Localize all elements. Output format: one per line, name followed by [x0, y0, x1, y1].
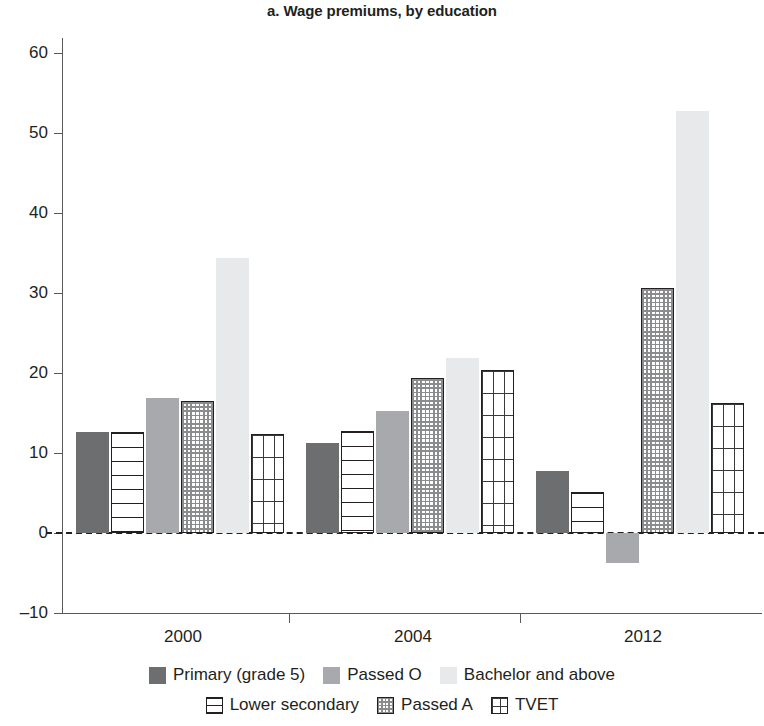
bar-2004-tvet [481, 370, 514, 533]
wage-premiums-chart: a. Wage premiums, by education –10010203… [0, 0, 764, 726]
legend-item-label: Primary (grade 5) [173, 665, 305, 685]
y-axis-label: 10 [0, 443, 48, 463]
bar-2012-lower-secondary [571, 492, 604, 533]
legend-item-label: TVET [515, 695, 558, 715]
legend-swatch-icon [149, 667, 166, 684]
x-axis-tick [289, 613, 290, 623]
legend-swatch-icon [206, 697, 223, 714]
bar-2012-primary-grade-5 [536, 471, 569, 533]
y-axis-label: 30 [0, 283, 48, 303]
y-axis-tick [54, 213, 63, 214]
bar-2012-passed-a [641, 288, 674, 533]
legend-item-lower-secondary[interactable]: Lower secondary [206, 695, 359, 715]
y-axis-tick [54, 613, 63, 614]
bar-2000-lower-secondary [111, 432, 144, 533]
bar-2000-passed-a [181, 401, 214, 533]
y-axis-label: –10 [0, 603, 48, 623]
x-axis-tick [520, 613, 521, 623]
legend-item-tvet[interactable]: TVET [491, 695, 558, 715]
bar-2000-bachelor-and-above [216, 258, 249, 533]
y-axis-label: 0 [0, 523, 48, 543]
legend-item-label: Passed O [347, 665, 422, 685]
legend-item-passed-o[interactable]: Passed O [323, 665, 422, 685]
legend-item-passed-a[interactable]: Passed A [377, 695, 473, 715]
legend-row-top: Primary (grade 5)Passed OBachelor and ab… [0, 660, 764, 690]
legend-item-label: Lower secondary [230, 695, 359, 715]
bar-2004-bachelor-and-above [446, 358, 479, 533]
legend-row-bottom: Lower secondaryPassed ATVET [0, 690, 764, 720]
legend-item-label: Bachelor and above [464, 665, 615, 685]
y-axis-tick [54, 53, 63, 54]
bar-2004-passed-a [411, 378, 444, 533]
y-axis-label: 20 [0, 363, 48, 383]
legend-swatch-icon [323, 667, 340, 684]
legend-swatch-icon [491, 697, 508, 714]
legend-item-bachelor-and-above[interactable]: Bachelor and above [440, 665, 615, 685]
bar-2012-passed-o [606, 533, 639, 563]
chart-title: a. Wage premiums, by education [0, 2, 764, 19]
y-axis-tick [54, 373, 63, 374]
y-axis-line [62, 38, 63, 613]
x-axis-label: 2000 [123, 627, 243, 647]
y-axis-tick [54, 133, 63, 134]
legend-item-label: Passed A [401, 695, 473, 715]
bar-2004-lower-secondary [341, 431, 374, 533]
y-axis-tick [54, 453, 63, 454]
bar-2012-bachelor-and-above [676, 111, 709, 533]
legend-swatch-icon [377, 697, 394, 714]
legend-swatch-icon [440, 667, 457, 684]
chart-legend: Primary (grade 5)Passed OBachelor and ab… [0, 660, 764, 720]
x-axis-label: 2004 [353, 627, 473, 647]
bar-2012-tvet [711, 403, 744, 533]
bar-2004-primary-grade-5 [306, 443, 339, 533]
bar-2004-passed-o [376, 411, 409, 533]
legend-item-primary-grade-5[interactable]: Primary (grade 5) [149, 665, 305, 685]
y-axis-tick [54, 293, 63, 294]
y-axis-label: 60 [0, 43, 48, 63]
bar-2000-primary-grade-5 [76, 432, 109, 533]
bar-2000-tvet [251, 434, 284, 533]
bar-2000-passed-o [146, 398, 179, 533]
y-axis-label: 40 [0, 203, 48, 223]
x-axis-line [62, 613, 762, 614]
y-axis-label: 50 [0, 123, 48, 143]
x-axis-label: 2012 [583, 627, 703, 647]
